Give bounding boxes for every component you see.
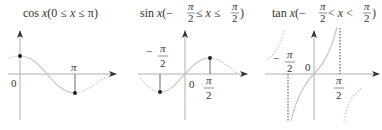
sin-start-point [158, 90, 162, 94]
cos-start-point [18, 54, 22, 58]
tan-origin-label: 0 [305, 61, 311, 73]
sin-neg-sign: − [146, 45, 152, 57]
cos-pi-label: π [71, 61, 77, 73]
tan-title-frac2-num: π [364, 0, 370, 12]
tan-title-close: ) [372, 6, 376, 20]
cos-panel: cos x(0 ≤ x ≤ π) 0 π [8, 6, 116, 120]
sin-end-point [208, 56, 212, 60]
tan-neg-den: 2 [287, 62, 293, 74]
tan-title-frac1-num: π [320, 0, 326, 12]
sin-neg-num: π [160, 42, 166, 54]
sin-title-frac1-den: 2 [188, 12, 194, 24]
sin-origin-label: 0 [189, 78, 195, 90]
trig-inverse-domains-diagram: cos x(0 ≤ x ≤ π) 0 π sin x(− π 2 ≤ x ≤ π… [0, 0, 382, 130]
tan-title: tan x(− [272, 6, 306, 20]
tan-title-frac2-den: 2 [364, 12, 370, 24]
sin-title-frac2-den: 2 [232, 12, 238, 24]
tan-neg-sign: − [273, 52, 279, 64]
tan-title-mid: < x < [328, 6, 353, 20]
tan-panel: tan x(− π 2 < x < π 2 ) 0 − π 2 π 2 [265, 0, 379, 122]
sin-curve-left-extension [140, 78, 160, 92]
sin-neg-den: 2 [160, 57, 166, 69]
tan-title-frac1-den: 2 [320, 12, 326, 24]
sin-title-close: ) [240, 6, 244, 20]
sin-panel: sin x(− π 2 ≤ x ≤ π 2 ) 0 − π 2 π 2 [138, 0, 247, 120]
tan-right-branch [344, 88, 362, 121]
sin-pos-den: 2 [206, 89, 212, 101]
sin-curve-right-extension [210, 58, 238, 74]
tan-neg-num: π [287, 48, 293, 60]
cos-end-point [73, 91, 77, 95]
sin-title: sin x(− [140, 6, 173, 20]
sin-pos-num: π [206, 74, 212, 86]
sin-title-frac2-num: π [232, 0, 238, 12]
sin-title-mid: ≤ x ≤ [196, 6, 221, 20]
tan-pos-den: 2 [336, 89, 342, 101]
cos-curve-right-extension [75, 74, 110, 93]
cos-title: cos x(0 ≤ x ≤ π) [23, 6, 98, 20]
cos-origin-label: 0 [11, 77, 17, 89]
sin-title-frac1-num: π [188, 0, 194, 12]
tan-pos-num: π [336, 74, 342, 86]
